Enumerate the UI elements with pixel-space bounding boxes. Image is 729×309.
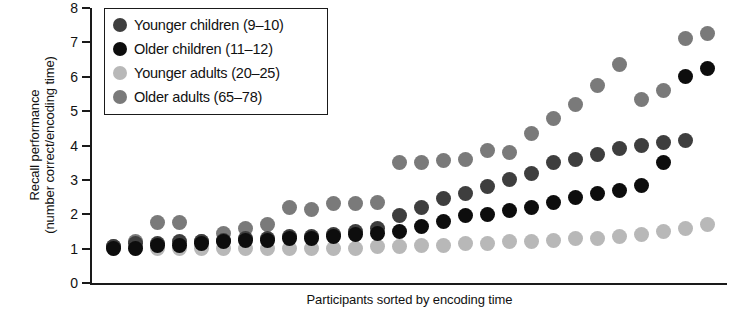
legend-item-3: Older adults (65–78): [113, 85, 321, 109]
data-point: [260, 217, 275, 232]
data-point: [678, 221, 693, 236]
legend-swatch-icon: [113, 66, 127, 80]
legend-swatch-icon: [113, 42, 127, 56]
y-tick-mark: [82, 213, 90, 215]
data-point: [414, 238, 429, 253]
data-point: [568, 152, 583, 167]
y-tick-label: 4: [58, 139, 78, 153]
y-tick-label: 6: [58, 70, 78, 84]
y-tick-label: 0: [58, 276, 78, 290]
data-point: [436, 191, 451, 206]
data-point: [568, 231, 583, 246]
data-point: [392, 155, 407, 170]
y-tick-label: 8: [58, 1, 78, 15]
data-point: [172, 238, 187, 253]
data-point: [304, 231, 319, 246]
data-point: [700, 61, 715, 76]
data-point: [656, 83, 671, 98]
data-point: [524, 126, 539, 141]
data-point: [150, 215, 165, 230]
data-point: [678, 69, 693, 84]
data-point: [612, 183, 627, 198]
chart-figure: Recall performance (number correct/encod…: [0, 0, 729, 309]
data-point: [656, 224, 671, 239]
data-point: [480, 236, 495, 251]
y-tick-label: 2: [58, 207, 78, 221]
legend-label: Older children (11–12): [134, 42, 273, 57]
data-point: [612, 141, 627, 156]
y-axis-title-line1: Recall performance: [27, 20, 42, 270]
data-point: [546, 195, 561, 210]
data-point: [546, 233, 561, 248]
data-point: [634, 138, 649, 153]
data-point: [436, 238, 451, 253]
data-point: [326, 196, 341, 211]
y-axis-title: Recall performance (number correct/encod…: [27, 20, 57, 270]
legend-label: Younger children (9–10): [134, 18, 284, 33]
x-axis-title: Participants sorted by encoding time: [90, 292, 729, 307]
data-point: [392, 239, 407, 254]
y-axis-title-line2: (number correct/encoding time): [42, 20, 57, 270]
y-tick-label: 5: [58, 104, 78, 118]
data-point: [678, 31, 693, 46]
data-point: [590, 78, 605, 93]
data-point: [502, 172, 517, 187]
data-point: [392, 224, 407, 239]
data-point: [282, 200, 297, 215]
data-point: [502, 203, 517, 218]
data-point: [568, 97, 583, 112]
y-tick-label: 7: [58, 35, 78, 49]
legend-item-1: Older children (11–12): [113, 37, 321, 61]
y-tick-mark: [82, 248, 90, 250]
data-point: [392, 208, 407, 223]
data-point: [480, 207, 495, 222]
data-point: [304, 202, 319, 217]
data-point: [656, 155, 671, 170]
data-point: [436, 214, 451, 229]
data-point: [348, 227, 363, 242]
data-point: [348, 196, 363, 211]
data-point: [326, 229, 341, 244]
legend-swatch-icon: [113, 90, 127, 104]
data-point: [634, 92, 649, 107]
data-point: [502, 234, 517, 249]
data-point: [590, 147, 605, 162]
data-point: [480, 143, 495, 158]
y-tick-mark: [82, 7, 90, 9]
data-point: [458, 152, 473, 167]
legend-swatch-icon: [113, 18, 127, 32]
data-point: [436, 153, 451, 168]
data-point: [370, 195, 385, 210]
data-point: [502, 145, 517, 160]
legend: Younger children (9–10)Older children (1…: [104, 8, 328, 115]
data-point: [480, 179, 495, 194]
legend-item-0: Younger children (9–10): [113, 13, 321, 37]
data-point: [128, 241, 143, 256]
data-point: [700, 217, 715, 232]
data-point: [172, 215, 187, 230]
data-point: [700, 26, 715, 41]
y-tick-mark: [82, 41, 90, 43]
data-point: [238, 233, 253, 248]
data-point: [348, 241, 363, 256]
data-point: [546, 155, 561, 170]
data-point: [524, 166, 539, 181]
y-tick-label: 3: [58, 173, 78, 187]
data-point: [546, 111, 561, 126]
data-point: [568, 190, 583, 205]
data-point: [678, 133, 693, 148]
y-tick-mark: [82, 179, 90, 181]
legend-label: Older adults (65–78): [134, 90, 262, 105]
data-point: [370, 226, 385, 241]
y-tick-mark: [82, 282, 90, 284]
data-point: [414, 219, 429, 234]
data-point: [634, 227, 649, 242]
data-point: [260, 233, 275, 248]
data-point: [106, 241, 121, 256]
y-tick-mark: [82, 110, 90, 112]
y-tick-mark: [82, 76, 90, 78]
legend-item-2: Younger adults (20–25): [113, 61, 321, 85]
data-point: [590, 231, 605, 246]
data-point: [458, 236, 473, 251]
y-tick-label: 1: [58, 242, 78, 256]
